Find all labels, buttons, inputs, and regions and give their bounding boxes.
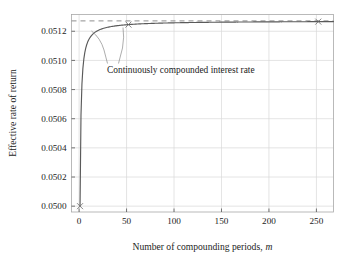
x-axis-title: Number of compounding periods,: [133, 241, 263, 252]
chart-figure: 0.05000.05020.05040.05060.05080.05100.05…: [0, 0, 359, 265]
y-tick-label: 0.0502: [41, 172, 67, 182]
y-tick-label: 0.0508: [41, 85, 67, 95]
y-tick-label: 0.0500: [41, 201, 67, 211]
y-tick-label: 0.0512: [41, 26, 67, 36]
y-tick-label: 0.0510: [41, 56, 67, 66]
x-axis-title-group: Number of compounding periods, m: [133, 241, 273, 252]
x-tick-label: 200: [262, 216, 276, 226]
y-tick-label: 0.0506: [41, 114, 67, 124]
annotation-continuous-rate: Continuously compounded interest rate: [107, 65, 255, 75]
y-tick-label: 0.0504: [41, 143, 67, 153]
x-axis-title-variable: m: [266, 241, 273, 252]
y-axis-title: Effective rate of return: [7, 69, 18, 157]
x-tick-label: 50: [122, 216, 132, 226]
effective-rate-line-chart: 0.05000.05020.05040.05060.05080.05100.05…: [0, 0, 359, 265]
x-tick-label: 250: [310, 216, 324, 226]
x-tick-label: 150: [215, 216, 229, 226]
x-tick-label: 100: [167, 216, 181, 226]
x-tick-label: 0: [77, 216, 82, 226]
